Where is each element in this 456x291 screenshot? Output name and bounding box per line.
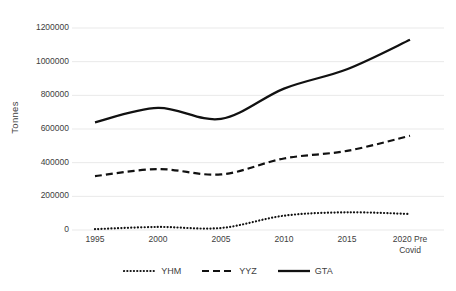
legend-item-gta[interactable]: GTA bbox=[277, 266, 333, 276]
legend-item-yhm[interactable]: YHM bbox=[123, 266, 181, 276]
y-tick-label: 0 bbox=[3, 225, 69, 234]
y-tick-label: 200000 bbox=[3, 191, 69, 200]
y-tick-label: 800000 bbox=[3, 90, 69, 99]
series-line-gta bbox=[95, 40, 410, 122]
gridlines bbox=[72, 28, 444, 230]
y-axis-ticks: 020000040000060000080000010000001200000 bbox=[0, 0, 69, 291]
series-layer bbox=[95, 40, 410, 229]
y-tick-label: 1000000 bbox=[3, 57, 69, 66]
line-chart: Tonnes 020000040000060000080000010000001… bbox=[0, 0, 456, 291]
legend-swatch-yyz bbox=[201, 266, 235, 276]
y-tick-label: 1200000 bbox=[3, 23, 69, 32]
chart-legend: YHMYYZGTA bbox=[0, 266, 456, 276]
legend-swatch-yhm bbox=[123, 266, 157, 276]
legend-swatch-gta bbox=[277, 266, 311, 276]
legend-label: YHM bbox=[161, 266, 181, 276]
legend-label: YYZ bbox=[239, 266, 257, 276]
series-line-yyz bbox=[95, 136, 410, 176]
y-tick-label: 400000 bbox=[3, 158, 69, 167]
legend-label: GTA bbox=[315, 266, 333, 276]
x-tick-label: 2020 PreCovid bbox=[370, 234, 450, 256]
y-tick-label: 600000 bbox=[3, 124, 69, 133]
legend-item-yyz[interactable]: YYZ bbox=[201, 266, 257, 276]
series-line-yhm bbox=[95, 212, 410, 229]
